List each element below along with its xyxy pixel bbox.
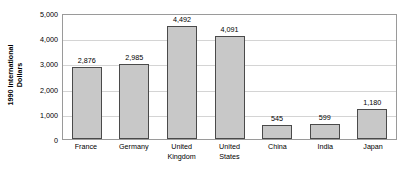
y-axis-tick-label: 4,000 (28, 35, 58, 44)
bar (119, 64, 149, 139)
x-axis-tick-label: United States (206, 142, 254, 161)
bar (262, 125, 292, 139)
x-axis-tick-label: Germany (110, 142, 158, 161)
bar-chart: 1990 International Dollars 01,0002,0003,… (0, 0, 403, 177)
y-axis-tick-label: 0 (28, 136, 58, 145)
bar-value-label: 599 (301, 113, 349, 122)
x-axis-tick-label: India (301, 142, 349, 161)
bar-slot: 4,492 (158, 15, 206, 139)
bar-value-label: 545 (253, 114, 301, 123)
bar (72, 67, 102, 139)
y-axis-title: 1990 International Dollars (0, 0, 30, 150)
x-axis-tick-label: United Kingdom (158, 142, 206, 161)
bar-value-label: 1,180 (348, 98, 396, 107)
y-axis-tick-label: 2,000 (28, 85, 58, 94)
x-axis-tick-label: France (62, 142, 110, 161)
y-axis-title-line-2: Dollars (15, 44, 24, 105)
bar-value-label: 4,492 (158, 15, 206, 24)
bar-slot: 4,091 (206, 15, 254, 139)
x-axis-tick-labels: FranceGermanyUnited KingdomUnited States… (62, 142, 397, 161)
y-axis-tick-label: 5,000 (28, 10, 58, 19)
bar-slot: 2,876 (63, 15, 111, 139)
x-axis-tick-label: China (253, 142, 301, 161)
y-axis-tick-label: 1,000 (28, 110, 58, 119)
bar (310, 124, 340, 139)
bar-slot: 599 (301, 15, 349, 139)
bar (215, 36, 245, 139)
bar-slot: 1,180 (348, 15, 396, 139)
bar (167, 26, 197, 139)
y-axis-tick-label: 3,000 (28, 60, 58, 69)
bar-slot: 2,985 (111, 15, 159, 139)
bars-group: 2,8762,9854,4924,0915455991,180 (63, 15, 396, 139)
plot-area: 2,8762,9854,4924,0915455991,180 (62, 14, 397, 140)
bar-slot: 545 (253, 15, 301, 139)
bar-value-label: 2,876 (63, 56, 111, 65)
x-axis-tick-label: Japan (349, 142, 397, 161)
bar-value-label: 2,985 (111, 53, 159, 62)
bar-value-label: 4,091 (206, 25, 254, 34)
y-axis-tick-labels: 01,0002,0003,0004,0005,000 (28, 14, 58, 140)
bar (357, 109, 387, 139)
